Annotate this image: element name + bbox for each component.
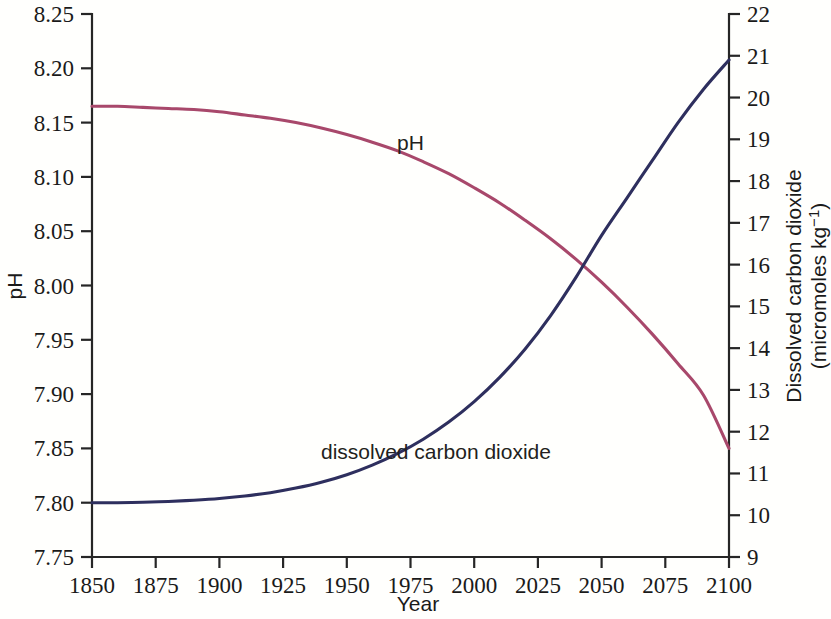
left-tick-label: 7.75: [34, 545, 74, 570]
left-tick-label: 7.90: [34, 382, 74, 407]
left-tick-label: 8.10: [34, 165, 74, 190]
bottom-tick-label: 2050: [579, 573, 625, 598]
left-tick-label: 7.85: [34, 436, 74, 461]
right-tick-label: 11: [747, 461, 769, 486]
left-tick-label: 8.00: [34, 274, 74, 299]
right-tick-label: 10: [747, 503, 770, 528]
right-tick-label: 14: [747, 336, 771, 361]
series-annotation-dissolved-carbon-dioxide: dissolved carbon dioxide: [321, 440, 551, 463]
right-tick-label: 16: [747, 253, 770, 278]
left-tick-label: 8.20: [34, 56, 74, 81]
right-tick-label: 18: [747, 169, 770, 194]
y-axis-title: pH: [3, 273, 26, 300]
bottom-tick-label: 1950: [324, 573, 370, 598]
bottom-tick-label: 2000: [451, 573, 497, 598]
right-tick-label: 19: [747, 127, 770, 152]
bottom-tick-label: 1925: [260, 573, 306, 598]
x-axis-title: Year: [397, 592, 439, 615]
bottom-tick-label: 1900: [196, 573, 242, 598]
bottom-tick-label: 1850: [69, 573, 115, 598]
y2-axis-title-line2: (micromoles kg−1): [805, 203, 830, 369]
right-tick-label: 9: [747, 545, 759, 570]
right-tick-label: 20: [747, 86, 770, 111]
bottom-tick-label: 1875: [133, 573, 179, 598]
left-tick-label: 7.80: [34, 491, 74, 516]
right-tick-label: 12: [747, 420, 770, 445]
chart-background: [0, 0, 831, 619]
series-annotation-ph: pH: [397, 131, 424, 154]
bottom-tick-label: 2025: [515, 573, 561, 598]
left-tick-label: 7.95: [34, 328, 74, 353]
left-tick-label: 8.05: [34, 219, 74, 244]
figure-container: 7.757.807.857.907.958.008.058.108.158.20…: [0, 0, 831, 619]
right-tick-label: 15: [747, 294, 770, 319]
left-tick-label: 8.25: [34, 2, 74, 27]
ph-co2-line-chart: 7.757.807.857.907.958.008.058.108.158.20…: [0, 0, 831, 619]
left-tick-label: 8.15: [34, 111, 74, 136]
right-tick-label: 22: [747, 2, 770, 27]
right-tick-label: 13: [747, 378, 770, 403]
bottom-tick-label: 2100: [706, 573, 752, 598]
y2-axis-title-line1: Dissolved carbon dioxide: [782, 169, 805, 402]
bottom-tick-label: 2075: [642, 573, 688, 598]
right-tick-label: 17: [747, 211, 770, 236]
right-tick-label: 21: [747, 44, 770, 69]
